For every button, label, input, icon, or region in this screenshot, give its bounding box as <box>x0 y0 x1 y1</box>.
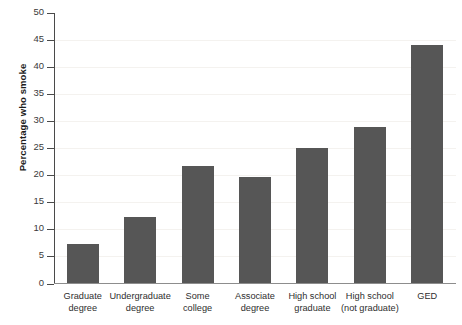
bar <box>124 217 156 283</box>
gridline <box>55 67 456 68</box>
bar-chart-figure: Percentage who smoke 0510152025303540455… <box>0 0 462 325</box>
bar <box>67 244 99 283</box>
gridline <box>55 148 456 149</box>
y-axis-tick-label: 45 <box>22 33 44 44</box>
y-axis-tick-label: 50 <box>22 6 44 17</box>
plot-area: 05101520253035404550 <box>54 13 456 284</box>
y-axis-tick: 40 <box>47 67 54 68</box>
y-axis-tick-label: 0 <box>22 277 44 288</box>
y-axis-tick-label: 40 <box>22 60 44 71</box>
y-axis-tick: 35 <box>47 94 54 95</box>
y-axis-tick: 20 <box>47 175 54 176</box>
y-axis-tick: 30 <box>47 121 54 122</box>
y-axis-tick-label: 25 <box>22 141 44 152</box>
y-axis-tick-label: 30 <box>22 114 44 125</box>
y-axis-tick-label: 10 <box>22 222 44 233</box>
y-axis-tick: 45 <box>47 40 54 41</box>
gridline <box>55 94 456 95</box>
y-axis-tick: 10 <box>47 229 54 230</box>
y-axis-tick-label: 15 <box>22 195 44 206</box>
y-axis-tick-label: 5 <box>22 249 44 260</box>
bar <box>354 127 386 283</box>
bar <box>182 166 214 283</box>
y-axis-tick: 50 <box>47 13 54 14</box>
y-axis-tick: 5 <box>47 256 54 257</box>
bar <box>239 177 271 283</box>
gridline <box>55 121 456 122</box>
gridline <box>55 40 456 41</box>
x-axis-category-label: GED <box>392 291 462 303</box>
y-axis-tick: 25 <box>47 148 54 149</box>
bar <box>411 45 443 283</box>
y-axis-tick: 15 <box>47 202 54 203</box>
x-axis-line <box>54 283 456 284</box>
y-axis-tick-label: 35 <box>22 87 44 98</box>
bar <box>296 148 328 284</box>
gridline <box>55 175 456 176</box>
y-axis-tick-label: 20 <box>22 168 44 179</box>
y-axis-tick: 0 <box>47 284 54 285</box>
